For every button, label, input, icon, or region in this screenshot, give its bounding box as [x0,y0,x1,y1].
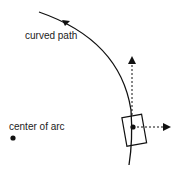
diagram-canvas [0,0,179,178]
center-of-arc-dot [10,135,15,140]
vehicle-box [122,114,147,146]
curved-path-label: curved path [25,30,77,41]
vehicle-center-dot [130,124,135,129]
center-of-arc-label: center of arc [9,121,65,132]
